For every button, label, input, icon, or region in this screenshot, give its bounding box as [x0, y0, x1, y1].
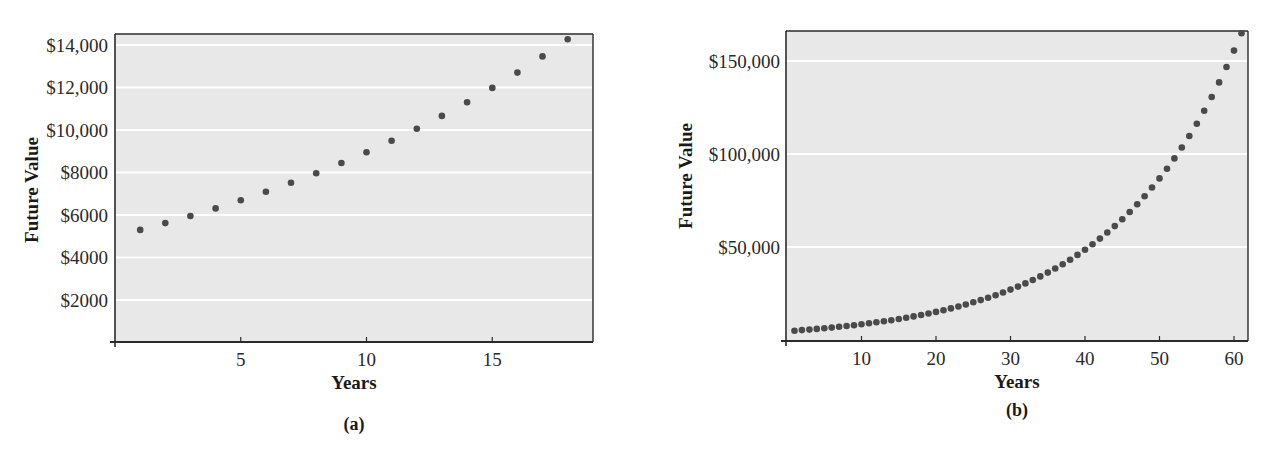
data-point: [881, 318, 888, 325]
x-tick-labels-a: 51015: [236, 349, 502, 370]
data-point: [910, 313, 917, 320]
x-tick-labels-b: 102030405060: [852, 348, 1244, 369]
data-point: [970, 299, 977, 306]
data-point: [313, 170, 320, 177]
y-tick-label: $100,000: [709, 144, 780, 165]
data-point: [866, 320, 873, 327]
chart-panel-b: $50,000$100,000$150,000 102030405060 Fut…: [675, 30, 1248, 421]
x-tick-label: 50: [1150, 348, 1169, 369]
data-point: [918, 312, 925, 319]
data-point: [1067, 256, 1074, 263]
data-point: [948, 305, 955, 312]
data-point: [1238, 30, 1245, 37]
data-point: [514, 69, 521, 76]
data-point: [1164, 165, 1171, 172]
data-point: [1208, 94, 1215, 101]
data-point: [903, 314, 910, 321]
data-point: [843, 323, 850, 330]
x-axis-title-b: Years: [994, 371, 1039, 392]
data-point: [414, 125, 421, 132]
data-point: [925, 310, 932, 317]
data-point: [858, 321, 865, 328]
data-point: [985, 294, 992, 301]
data-point: [1097, 235, 1104, 242]
data-point: [1216, 79, 1223, 86]
data-point: [539, 53, 546, 60]
data-point: [1030, 277, 1037, 284]
y-tick-label: $150,000: [709, 51, 780, 72]
y-tick-label: $50,000: [718, 237, 780, 258]
figure: $2000$4000$6000$8000$10,000$12,000$14,00…: [0, 0, 1266, 458]
x-tick-label: 20: [927, 348, 946, 369]
data-point: [1223, 64, 1230, 71]
data-point: [464, 99, 471, 106]
y-tick-label: $6000: [61, 205, 109, 226]
data-point: [489, 85, 496, 92]
data-point: [1082, 247, 1089, 254]
data-point: [791, 327, 798, 334]
data-point: [1000, 289, 1007, 296]
data-point: [564, 36, 571, 43]
data-point: [162, 220, 169, 227]
data-point: [1015, 283, 1022, 290]
data-point: [1179, 144, 1186, 151]
y-tick-label: $2000: [61, 290, 109, 311]
data-point: [1104, 229, 1111, 236]
y-tick-labels-a: $2000$4000$6000$8000$10,000$12,000$14,00…: [46, 35, 108, 311]
data-point: [806, 326, 813, 333]
y-tick-label: $8000: [61, 162, 109, 183]
data-point: [888, 317, 895, 324]
data-point: [1089, 241, 1096, 248]
data-point: [940, 307, 947, 314]
y-axis-title-b: Future Value: [675, 123, 696, 229]
data-point: [1194, 120, 1201, 127]
x-tick-label: 5: [236, 349, 246, 370]
data-point: [1149, 184, 1156, 191]
data-point: [933, 309, 940, 316]
data-point: [137, 227, 144, 234]
data-point: [896, 316, 903, 323]
data-point: [238, 197, 245, 204]
data-point: [814, 326, 821, 333]
y-tick-label: $10,000: [46, 120, 108, 141]
data-point: [851, 322, 858, 329]
data-point: [1007, 286, 1014, 293]
x-tick-label: 15: [483, 349, 502, 370]
chart-panel-a: $2000$4000$6000$8000$10,000$12,000$14,00…: [21, 34, 593, 435]
data-point: [212, 205, 219, 212]
data-point: [1059, 261, 1066, 268]
x-tick-label: 10: [357, 349, 376, 370]
data-point: [992, 292, 999, 299]
data-point: [1134, 201, 1141, 208]
data-point: [1201, 108, 1208, 115]
y-tick-label: $14,000: [46, 35, 108, 56]
data-point: [873, 319, 880, 326]
data-point: [388, 138, 395, 145]
data-point: [1156, 175, 1163, 182]
data-point: [1126, 209, 1133, 216]
data-point: [836, 324, 843, 331]
data-point: [1141, 193, 1148, 200]
x-axis-title-a: Years: [331, 372, 376, 393]
plot-area-a: [115, 34, 593, 342]
x-tick-label: 60: [1225, 348, 1244, 369]
data-point: [187, 213, 194, 220]
data-point: [1231, 47, 1238, 54]
y-tick-labels-b: $50,000$100,000$150,000: [709, 51, 780, 258]
data-point: [1045, 269, 1052, 276]
data-point: [1022, 280, 1029, 287]
data-point: [1171, 155, 1178, 162]
data-point: [963, 301, 970, 308]
panel-label-a: (a): [344, 414, 365, 435]
panel-label-b: (b): [1006, 400, 1028, 421]
data-point: [821, 325, 828, 332]
data-point: [288, 179, 295, 186]
data-point: [1037, 273, 1044, 280]
x-tick-label: 40: [1076, 348, 1095, 369]
plot-area-b: [786, 31, 1248, 341]
data-point: [338, 160, 345, 167]
data-point: [828, 324, 835, 331]
data-point: [1074, 252, 1081, 259]
y-tick-label: $4000: [61, 247, 109, 268]
data-point: [363, 149, 370, 156]
